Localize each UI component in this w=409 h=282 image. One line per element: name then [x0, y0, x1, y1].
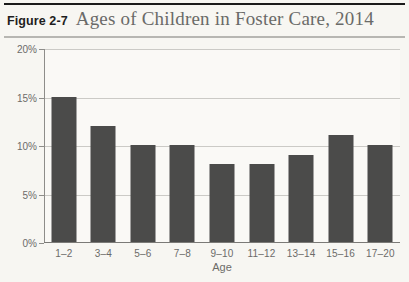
y-tick-label-10: 10%: [17, 141, 37, 152]
y-tick-label-0: 0%: [23, 238, 37, 249]
x-tick-label-7–8: 7–8: [163, 248, 203, 259]
top-divider: [4, 3, 405, 5]
bar-1–2: [51, 97, 76, 243]
x-tick-label-15–16: 15–16: [321, 248, 361, 259]
x-tick-label-5–6: 5–6: [123, 248, 163, 259]
x-tick-label-11–12: 11–12: [242, 248, 282, 259]
bar-13–14: [289, 155, 314, 242]
x-tick-label-9–10: 9–10: [202, 248, 242, 259]
figure-2-7: Figure 2-7 Ages of Children in Foster Ca…: [0, 0, 409, 282]
y-axis-line: [44, 49, 45, 243]
bar-17–20: [368, 145, 393, 242]
header-divider: [4, 36, 405, 38]
x-tick-label-13–14: 13–14: [281, 248, 321, 259]
bar-15–16: [328, 135, 353, 242]
gridline-20: [44, 49, 400, 50]
x-axis-tick-labels: 1–23–45–67–89–1011–1213–1415–1617–20: [44, 248, 400, 259]
y-tick-label-20: 20%: [17, 44, 37, 55]
figure-label: Figure 2-7: [7, 14, 68, 28]
figure-header: Figure 2-7 Ages of Children in Foster Ca…: [7, 8, 374, 30]
bar-3–4: [91, 126, 116, 242]
plot-area: [44, 49, 400, 243]
y-tick-0: [39, 243, 44, 244]
bar-5–6: [130, 145, 155, 242]
figure-title: Ages of Children in Foster Care, 2014: [76, 8, 374, 30]
bar-7–8: [170, 145, 195, 242]
x-tick-label-3–4: 3–4: [84, 248, 124, 259]
y-tick-label-15: 15%: [17, 92, 37, 103]
x-tick-label-17–20: 17–20: [361, 248, 401, 259]
x-tick-label-1–2: 1–2: [44, 248, 84, 259]
bar-9–10: [210, 164, 235, 242]
y-tick-label-5: 5%: [23, 189, 37, 200]
gridline-15: [44, 98, 400, 99]
bar-11–12: [249, 164, 274, 242]
y-axis-labels: 20%15%10%5%0%: [0, 49, 37, 243]
x-axis-line: [44, 242, 400, 243]
x-axis-title: Age: [44, 261, 400, 273]
